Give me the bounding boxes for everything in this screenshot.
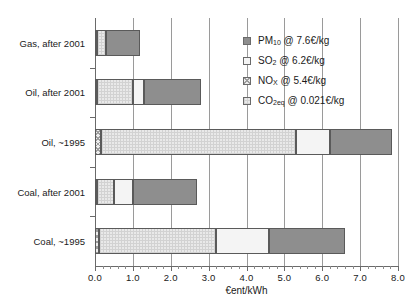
x-tick-1.0: [133, 266, 134, 271]
legend-item-so2: SO2 @ 6.2€/kg: [243, 55, 344, 66]
y-axis-tick-labels: Gas, after 2001Oil, after 2001Oil, ~1995…: [0, 0, 95, 306]
x-minor-tick: [140, 266, 141, 269]
bar-segment-so2: [133, 79, 144, 105]
legend-label-so2: SO2 @ 6.2€/kg: [258, 55, 325, 66]
x-tick-4.0: [247, 266, 248, 271]
x-tick-8.0: [398, 266, 399, 271]
bar-row: [95, 179, 398, 205]
bar-segment-pm10: [106, 30, 140, 56]
x-minor-tick: [345, 266, 346, 269]
bar-segment-co2: [97, 179, 114, 205]
x-tick-5.0: [284, 266, 285, 271]
y-tick-label-gas-after-2001: Gas, after 2001: [20, 37, 85, 48]
x-tick-label-7.0: 7.0: [353, 272, 367, 283]
y-tick: [90, 167, 95, 168]
x-minor-tick: [178, 266, 179, 269]
y-tick-label-oil-1995: Oil, ~1995: [41, 137, 85, 148]
gridline-8.0: [398, 18, 399, 266]
x-minor-tick: [375, 266, 376, 269]
x-minor-tick: [193, 266, 194, 269]
stacked-bar-chart: Gas, after 2001Oil, after 2001Oil, ~1995…: [0, 0, 418, 306]
x-tick-0.0: [95, 266, 96, 271]
x-minor-tick: [390, 266, 391, 269]
x-minor-tick: [201, 266, 202, 269]
y-tick: [90, 216, 95, 217]
x-minor-tick: [103, 266, 104, 269]
x-minor-tick: [330, 266, 331, 269]
bar-segment-co2: [101, 129, 296, 155]
y-tick-label-oil-after-2001: Oil, after 2001: [25, 87, 85, 98]
x-tick-label-1.0: 1.0: [126, 272, 140, 283]
x-tick-label-0.0: 0.0: [88, 272, 102, 283]
x-tick-label-5.0: 5.0: [277, 272, 291, 283]
x-minor-tick: [163, 266, 164, 269]
bar-segment-pm10: [133, 179, 197, 205]
x-minor-tick: [239, 266, 240, 269]
x-minor-tick: [118, 266, 119, 269]
x-minor-tick: [292, 266, 293, 269]
x-minor-tick: [125, 266, 126, 269]
x-tick-6.0: [322, 266, 323, 271]
x-minor-tick: [216, 266, 217, 269]
bar-segment-pm10: [330, 129, 392, 155]
x-minor-tick: [337, 266, 338, 269]
bar-segment-co2: [99, 228, 216, 254]
bar-row: [95, 79, 398, 105]
y-tick: [90, 68, 95, 69]
x-tick-label-6.0: 6.0: [315, 272, 329, 283]
bar-segment-pm10: [144, 79, 201, 105]
bar-row: [95, 30, 398, 56]
y-tick: [90, 117, 95, 118]
bar-segment-so2: [296, 129, 330, 155]
x-tick-3.0: [209, 266, 210, 271]
x-minor-tick: [277, 266, 278, 269]
bar-row: [95, 228, 398, 254]
bar-segment-so2: [216, 228, 269, 254]
x-axis-title: €ent/kWh: [95, 285, 398, 296]
x-minor-tick: [262, 266, 263, 269]
bar-segment-co2: [97, 30, 106, 56]
x-minor-tick: [307, 266, 308, 269]
bar-segment-pm10: [269, 228, 345, 254]
x-minor-tick: [269, 266, 270, 269]
y-tick-label-coal-1995: Coal, ~1995: [34, 236, 86, 247]
x-minor-tick: [110, 266, 111, 269]
x-minor-tick: [156, 266, 157, 269]
x-minor-tick: [231, 266, 232, 269]
y-tick-label-coal-after-2001: Coal, after 2001: [17, 186, 85, 197]
x-tick-label-4.0: 4.0: [240, 272, 254, 283]
x-tick-label-8.0: 8.0: [391, 272, 405, 283]
bar-segment-co2: [97, 79, 133, 105]
x-minor-tick: [383, 266, 384, 269]
x-minor-tick: [186, 266, 187, 269]
x-minor-tick: [368, 266, 369, 269]
legend-swatch-so2: [243, 57, 251, 65]
x-minor-tick: [254, 266, 255, 269]
x-tick-label-2.0: 2.0: [164, 272, 178, 283]
x-minor-tick: [315, 266, 316, 269]
x-minor-tick: [300, 266, 301, 269]
x-minor-tick: [224, 266, 225, 269]
x-tick-7.0: [360, 266, 361, 271]
bar-segment-so2: [114, 179, 133, 205]
x-minor-tick: [148, 266, 149, 269]
bar-row: [95, 129, 398, 155]
x-tick-2.0: [171, 266, 172, 271]
x-tick-label-3.0: 3.0: [202, 272, 216, 283]
x-minor-tick: [353, 266, 354, 269]
